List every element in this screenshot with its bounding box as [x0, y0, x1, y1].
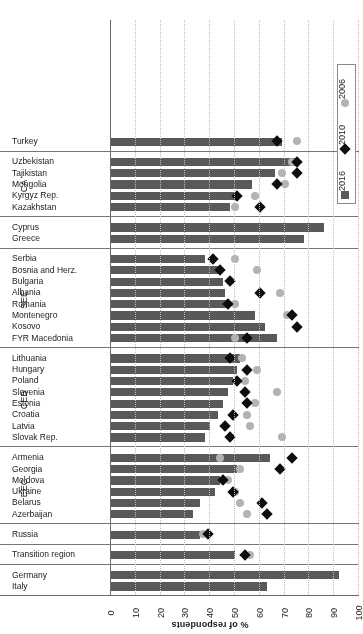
- group-separator-label-panel: [0, 347, 111, 348]
- bar-2016: [111, 400, 223, 408]
- group-separator: [111, 216, 359, 217]
- gridline-10: [135, 20, 136, 595]
- table-row: [111, 332, 359, 343]
- bar-2016: [111, 192, 237, 200]
- bar-2016: [111, 571, 339, 579]
- table-row: [111, 298, 359, 309]
- table-row: [111, 156, 359, 167]
- bar-2016: [111, 499, 200, 507]
- category-label: Cyprus: [12, 222, 108, 233]
- marker-2006: [243, 411, 251, 419]
- gridline-100: [358, 20, 359, 595]
- chart-legend: 201620102006: [337, 64, 356, 204]
- group-separator-label-panel: [0, 544, 111, 545]
- bar-2016: [111, 180, 252, 188]
- marker-2010: [219, 420, 230, 431]
- legend-item-2006[interactable]: 2006: [336, 65, 355, 111]
- gridline-70: [284, 20, 285, 595]
- marker-2006: [253, 366, 261, 374]
- category-label: Azerbaijan: [12, 509, 108, 520]
- group-separator: [111, 564, 359, 565]
- legend-label: 2006: [338, 74, 348, 104]
- marker-2006: [236, 499, 244, 507]
- bar-2016: [111, 158, 299, 166]
- gridline-20: [160, 20, 161, 595]
- table-row: [111, 475, 359, 486]
- group-separator-label-panel: [0, 151, 111, 152]
- table-row: [111, 409, 359, 420]
- plot-area: [111, 20, 359, 596]
- bar-2016: [111, 531, 200, 539]
- table-row: [111, 463, 359, 474]
- gridline-80: [308, 20, 309, 595]
- bar-2016: [111, 235, 304, 243]
- x-tick-70: 70: [280, 603, 290, 623]
- bar-2016: [111, 203, 230, 211]
- table-row: [111, 233, 359, 244]
- table-row: [111, 253, 359, 264]
- group-separator-label-panel: [0, 248, 111, 249]
- table-row: [111, 497, 359, 508]
- table-row: [111, 353, 359, 364]
- table-row: [111, 321, 359, 332]
- bar-2016: [111, 422, 210, 430]
- group-separator: [111, 151, 359, 152]
- category-label: Hungary: [12, 364, 108, 375]
- x-tick-60: 60: [255, 603, 265, 623]
- category-label: Serbia: [12, 253, 108, 264]
- category-label: Armenia: [12, 452, 108, 463]
- category-label: Latvia: [12, 420, 108, 431]
- legend-label: 2016: [338, 166, 348, 196]
- group-separator: [111, 523, 359, 524]
- marker-2010: [291, 321, 302, 332]
- marker-2006: [278, 433, 286, 441]
- x-tick-100: 100: [354, 603, 363, 623]
- x-tick-80: 80: [304, 603, 314, 623]
- table-row: [111, 398, 359, 409]
- table-row: [111, 136, 359, 147]
- table-row: [111, 549, 359, 560]
- table-row: [111, 432, 359, 443]
- gridline-30: [184, 20, 185, 595]
- category-label: Turkey: [12, 136, 108, 147]
- legend-item-2016[interactable]: 2016: [336, 157, 355, 203]
- gridline-90: [333, 20, 334, 595]
- category-label: Kosovo: [12, 321, 108, 332]
- marker-2010: [286, 452, 297, 463]
- group-separator-label-panel: [0, 447, 111, 448]
- bar-2016: [111, 278, 223, 286]
- table-row: [111, 222, 359, 233]
- plot-top-border: [111, 595, 359, 596]
- marker-2006: [231, 255, 239, 263]
- x-tick-50: 50: [230, 603, 240, 623]
- marker-2010: [239, 387, 250, 398]
- bar-2016: [111, 476, 220, 484]
- bar-2016: [111, 433, 205, 441]
- bar-chart-figure: % of respondents 1009080706050403020100 …: [0, 0, 363, 634]
- table-row: [111, 276, 359, 287]
- bar-2016: [111, 377, 233, 385]
- table-row: [111, 364, 359, 375]
- category-label: FYR Macedonia: [12, 332, 108, 343]
- marker-2006: [293, 137, 301, 145]
- table-row: [111, 486, 359, 497]
- gridline-50: [234, 20, 235, 595]
- marker-2006: [251, 192, 259, 200]
- group-separator-label-panel: [0, 564, 111, 565]
- bar-2016: [111, 366, 237, 374]
- marker-2006: [231, 203, 239, 211]
- category-label: Lithuania: [12, 353, 108, 364]
- category-label: Transition region: [12, 549, 108, 560]
- group-label-see: SEE: [19, 280, 29, 320]
- group-separator: [111, 447, 359, 448]
- legend-item-2010[interactable]: 2010: [336, 111, 355, 157]
- group-separator: [111, 248, 359, 249]
- table-row: [111, 529, 359, 540]
- marker-2006: [246, 422, 254, 430]
- bar-rows-container: [111, 20, 359, 595]
- marker-2006: [231, 334, 239, 342]
- chart-rotation-wrapper: % of respondents 1009080706050403020100 …: [0, 0, 363, 634]
- bar-2016: [111, 510, 193, 518]
- table-row: [111, 179, 359, 190]
- group-label-ca: CA: [19, 166, 29, 206]
